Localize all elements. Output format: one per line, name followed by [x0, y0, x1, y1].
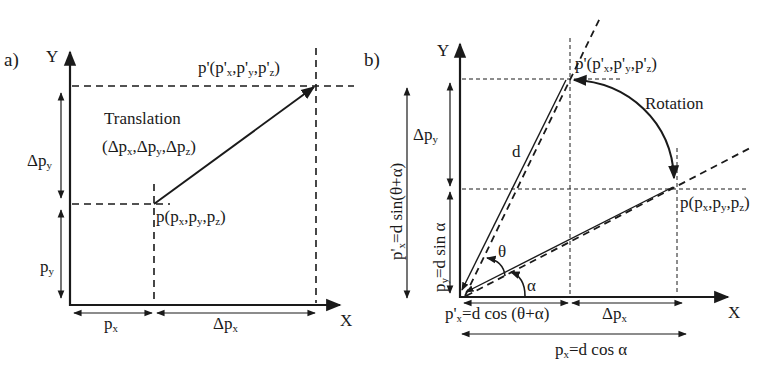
- panel-a-y-axis-label: Y: [46, 47, 58, 66]
- panel-a-x-axis-label: X: [340, 311, 352, 330]
- panel-a-dim-px-label: px: [104, 314, 119, 334]
- panel-b-dim-py-new-label: p'x=d sin(θ+α): [387, 163, 407, 260]
- panel-b-rotation-title: Rotation: [645, 94, 704, 113]
- panel-b-y-axis-label: Y: [437, 41, 449, 60]
- panel-a-dim-py-label: py: [40, 257, 55, 277]
- panel-a-translation: a) Y X p'(p'x,p'y,p'z) p(px,py,pz) Trans…: [4, 47, 354, 334]
- panel-b-rotation: b) Y X d Rotation α θ p'(p'x,p'y,p'z) p(…: [364, 18, 752, 360]
- panel-a-translation-params: (Δpx,Δpy,Δpz): [102, 137, 196, 157]
- panel-b-angle-theta: θ: [498, 242, 506, 261]
- panel-a-label: a): [4, 49, 19, 71]
- panel-b-dim-px-new-label: p'x=d cos (θ+α): [445, 304, 549, 324]
- panel-a-point-new-label: p'(p'x,p'y,p'z): [198, 58, 280, 78]
- panel-a-translation-title: Translation: [104, 109, 181, 128]
- panel-b-radius-label: d: [512, 142, 521, 161]
- panel-b-point-new-label: p'(p'x,p'y,p'z): [575, 54, 657, 74]
- panel-b-angle-alpha: α: [527, 276, 536, 295]
- panel-b-dim-py-label: py=d sin α: [430, 223, 450, 292]
- panel-b-point-orig-label: p(px,py,pz): [680, 193, 750, 213]
- panel-b-vector-d-new: [462, 80, 566, 290]
- panel-a-dim-delta-px-label: Δpx: [213, 314, 238, 334]
- figure: a) Y X p'(p'x,p'y,p'z) p(px,py,pz) Trans…: [0, 0, 776, 377]
- panel-b-dashed-ray-orig: [466, 147, 752, 296]
- panel-a-point-orig-label: p(px,py,pz): [156, 207, 226, 227]
- panel-b-dim-delta-py-label: Δpy: [413, 125, 438, 145]
- panel-b-dim-delta-px-label: Δpx: [602, 304, 627, 324]
- panel-b-angle-alpha-arc: [511, 272, 525, 296]
- panel-a-dim-delta-py-label: Δpy: [27, 151, 52, 171]
- panel-b-label: b): [364, 49, 380, 71]
- panel-b-dim-px-label: px=d cos α: [555, 340, 627, 360]
- panel-b-x-axis-label: X: [728, 303, 740, 322]
